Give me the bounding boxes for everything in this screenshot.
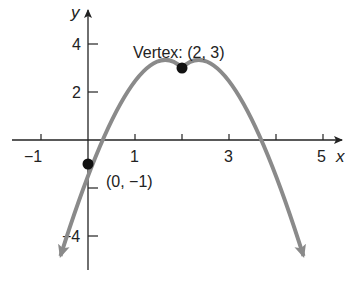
y-axis-label: y bbox=[70, 3, 81, 22]
parabola-curve-right bbox=[182, 60, 304, 256]
x-tick-label-3: 3 bbox=[224, 148, 233, 165]
x-tick-label-neg1: −1 bbox=[24, 148, 42, 165]
vertex-point bbox=[177, 63, 188, 74]
x-tick-label-1: 1 bbox=[130, 148, 139, 165]
x-axis-label: x bbox=[335, 147, 345, 166]
x-tick-label-5: 5 bbox=[317, 148, 326, 165]
y-tick-label-2: 2 bbox=[72, 84, 81, 101]
y-intercept-label: (0, −1) bbox=[106, 173, 153, 190]
y-tick-label-4: 4 bbox=[72, 36, 81, 53]
parabola-graph: −1 1 3 5 x 4 2 −4 y Vertex: (2, 3) (0, −… bbox=[0, 0, 345, 281]
x-ticks bbox=[41, 134, 323, 140]
vertex-label: Vertex: (2, 3) bbox=[133, 44, 225, 61]
y-intercept-point bbox=[83, 159, 94, 170]
chart-canvas: −1 1 3 5 x 4 2 −4 y Vertex: (2, 3) (0, −… bbox=[0, 0, 345, 281]
